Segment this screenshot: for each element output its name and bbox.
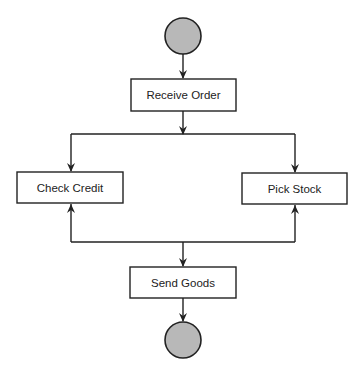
node-label-send-goods: Send Goods — [151, 277, 215, 289]
node-send-goods[interactable]: Send Goods — [130, 267, 236, 298]
node-label-check-credit: Check Credit — [37, 182, 104, 194]
node-label-pick-stock: Pick Stock — [268, 183, 322, 195]
node-receive-order[interactable]: Receive Order — [131, 79, 236, 111]
start-node — [165, 18, 201, 54]
node-label-receive-order: Receive Order — [146, 89, 220, 101]
node-pick-stock[interactable]: Pick Stock — [242, 173, 347, 204]
node-check-credit[interactable]: Check Credit — [17, 172, 123, 203]
end-node — [165, 322, 201, 358]
activity-diagram: Receive Order Check Credit Pick Stock Se… — [0, 0, 361, 375]
